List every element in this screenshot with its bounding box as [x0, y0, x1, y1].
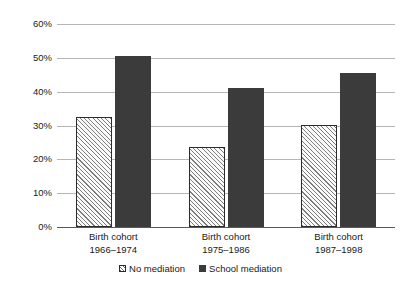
category-label-line-2: 1987–1998: [282, 244, 395, 257]
legend-item: No mediation: [119, 263, 185, 274]
hatched-square-icon: [119, 265, 126, 272]
category-label-line-1: Birth cohort: [89, 231, 138, 242]
y-axis-tick-label: 50%: [4, 53, 52, 63]
bar-group: [57, 24, 170, 227]
bar: [340, 73, 376, 227]
category-label-line-1: Birth cohort: [314, 231, 363, 242]
bar: [228, 88, 264, 227]
y-axis-tick-label: 30%: [4, 121, 52, 131]
bar: [115, 56, 151, 227]
y-axis: 60%50%40%30%20%10%0%: [0, 24, 52, 227]
bar: [76, 117, 112, 227]
axis-baseline: [57, 227, 395, 228]
x-axis-category-label: Birth cohort1987–1998: [282, 231, 395, 256]
legend-label: No mediation: [129, 263, 185, 274]
x-axis-category-label: Birth cohort1966–1974: [57, 231, 170, 256]
solid-square-icon: [199, 265, 206, 272]
plot-area: [57, 24, 395, 227]
x-axis-category-label: Birth cohort1975–1986: [170, 231, 283, 256]
x-axis-labels: Birth cohort1966–1974Birth cohort1975–19…: [57, 231, 395, 261]
chart-legend: No mediationSchool mediation: [0, 263, 401, 274]
bar: [301, 125, 337, 227]
y-axis-tick-label: 0%: [4, 222, 52, 232]
y-axis-tick-label: 20%: [4, 154, 52, 164]
category-label-line-1: Birth cohort: [202, 231, 251, 242]
category-label-line-2: 1966–1974: [57, 244, 170, 257]
y-axis-tick-label: 60%: [4, 19, 52, 29]
category-label-line-2: 1975–1986: [170, 244, 283, 257]
legend-label: School mediation: [209, 263, 282, 274]
y-axis-tick-label: 40%: [4, 87, 52, 97]
bar: [189, 147, 225, 227]
bar-chart: 60%50%40%30%20%10%0% Birth cohort1966–19…: [0, 0, 401, 290]
bar-group: [170, 24, 283, 227]
legend-item: School mediation: [199, 263, 282, 274]
bar-group: [282, 24, 395, 227]
y-axis-tick-label: 10%: [4, 188, 52, 198]
